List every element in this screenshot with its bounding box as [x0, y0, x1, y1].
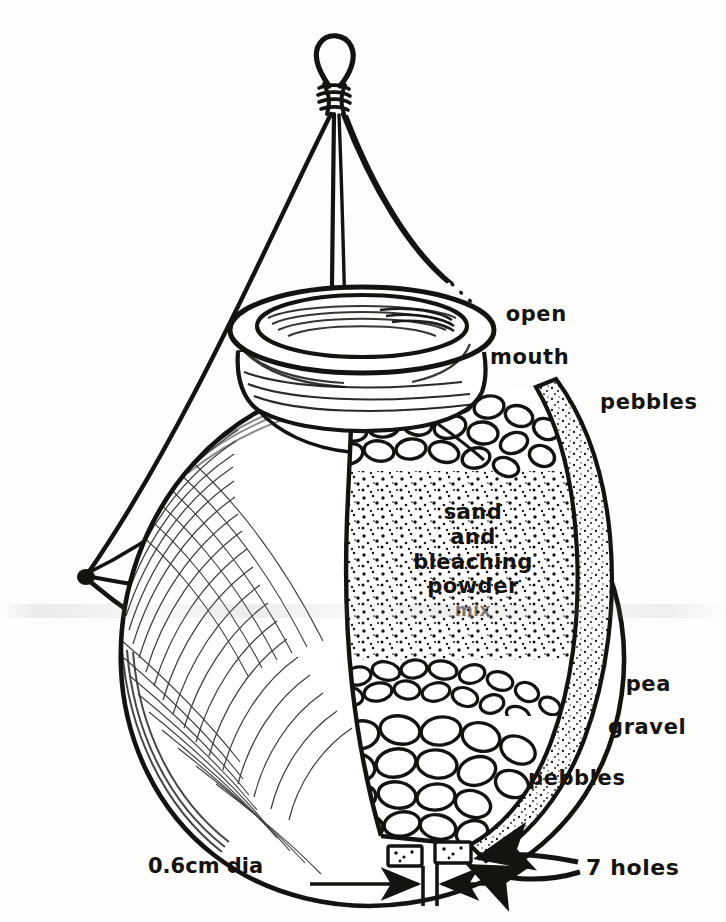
label-pebbles-bottom: pebbles [528, 768, 625, 789]
label-hole-diameter: 0.6cm dia [148, 856, 263, 877]
label-pea-gravel: pea gravel [594, 653, 686, 780]
label-open-mouth-line2: mouth [490, 347, 569, 368]
label-pebbles-top: pebbles [600, 392, 697, 413]
fill-label-line5: mix [398, 600, 548, 620]
fill-label-line1: sand [398, 500, 548, 525]
label-open-mouth-line1: open [506, 302, 567, 326]
fill-label-line4: powder [398, 574, 548, 599]
figure-canvas: open mouth pebbles sand and bleaching po… [0, 0, 726, 922]
fill-label-line2: and [398, 525, 548, 550]
label-pea-gravel-line1: pea [626, 672, 671, 696]
fill-label-line3: bleaching [398, 550, 548, 575]
label-open-mouth: open mouth [474, 283, 569, 410]
rope-loop-icon [316, 36, 353, 86]
rope-cord-right-2 [347, 116, 452, 283]
rope-cord-right [343, 114, 447, 281]
label-seven-holes: 7 holes [586, 857, 680, 879]
rope-side-knot-icon [77, 569, 95, 585]
label-pea-gravel-line2: gravel [608, 717, 686, 738]
label-sand-bleaching-powder-mix: sand and bleaching powder mix [398, 500, 548, 620]
